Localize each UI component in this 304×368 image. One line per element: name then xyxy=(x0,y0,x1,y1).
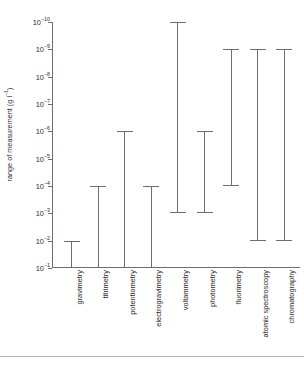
range-bar xyxy=(223,49,239,186)
y-axis-tick-labels: 10−1010−910−810−710−610−510−410−310−210−… xyxy=(16,0,50,268)
x-axis-tick-label: atomic spectroscopy xyxy=(261,270,270,337)
y-axis-tick-mark xyxy=(48,213,52,214)
range-bar xyxy=(90,186,106,268)
range-bar-stem xyxy=(98,186,99,268)
range-bar-upper-cap xyxy=(223,49,239,50)
range-bar-lower-cap xyxy=(197,212,213,213)
range-bar xyxy=(64,241,80,268)
range-bar-stem xyxy=(177,22,178,213)
y-axis-title-text: range of measurement (g l−1) xyxy=(5,87,14,181)
range-bar-stem xyxy=(284,49,285,240)
y-axis-tick-mark xyxy=(48,131,52,132)
x-axis-tick-label: electrogravimetry xyxy=(154,270,163,327)
y-axis-tick-mark xyxy=(48,186,52,187)
range-bar-stem xyxy=(151,186,152,268)
range-bar-upper-cap xyxy=(250,49,266,50)
range-bar-upper-cap xyxy=(197,131,213,132)
range-bar xyxy=(117,131,133,268)
x-axis-tick-label: chromatography xyxy=(287,270,296,323)
x-axis-tick-labels: gravimetrytitrimetrypotentiometryelectro… xyxy=(52,270,300,350)
x-axis-tick-label: voltammetry xyxy=(181,270,190,310)
x-axis-tick-label: titrimetry xyxy=(101,270,110,298)
plot-area xyxy=(52,22,300,268)
range-bar-upper-cap xyxy=(276,49,292,50)
y-axis-tick-mark xyxy=(48,104,52,105)
range-bar-upper-cap xyxy=(117,131,133,132)
range-bar-stem xyxy=(204,131,205,213)
y-axis-tick-mark xyxy=(48,159,52,160)
range-bar-lower-cap xyxy=(170,212,186,213)
y-axis-tick-mark xyxy=(48,241,52,242)
range-bar-lower-cap xyxy=(276,240,292,241)
bottom-divider xyxy=(0,356,304,357)
range-bar xyxy=(197,131,213,213)
range-bar-stem xyxy=(71,241,72,268)
range-bars-layer xyxy=(52,22,300,268)
y-axis-tick-mark xyxy=(48,49,52,50)
range-bar xyxy=(250,49,266,240)
x-axis-tick-label: gravimetry xyxy=(75,270,84,305)
range-bar-lower-cap xyxy=(223,185,239,186)
y-axis-tick-mark xyxy=(48,268,52,269)
range-bar xyxy=(170,22,186,213)
range-bar-upper-cap xyxy=(143,186,159,187)
range-bar xyxy=(143,186,159,268)
range-bar-upper-cap xyxy=(170,22,186,23)
range-bar-stem xyxy=(257,49,258,240)
x-axis-tick-label: fluorimetry xyxy=(234,270,243,305)
y-axis-tick-mark xyxy=(48,77,52,78)
range-of-measurement-chart: range of measurement (g l−1) 10−1010−910… xyxy=(0,0,304,368)
x-axis-tick-label: photometry xyxy=(208,270,217,307)
range-bar-upper-cap xyxy=(64,241,80,242)
range-bar-stem xyxy=(231,49,232,186)
y-axis-tick-mark xyxy=(48,22,52,23)
range-bar-stem xyxy=(124,131,125,268)
range-bar-lower-cap xyxy=(250,240,266,241)
range-bar xyxy=(276,49,292,240)
x-axis-tick-label: potentiometry xyxy=(128,270,137,315)
range-bar-upper-cap xyxy=(90,186,106,187)
